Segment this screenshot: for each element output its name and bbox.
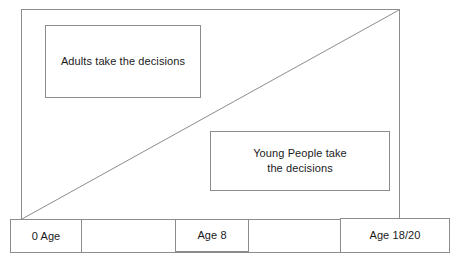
timeline-marker-middle-label: Age 8 xyxy=(175,219,249,252)
adults-region-label: Adults take the decisions xyxy=(45,25,201,98)
young-people-region-label: Young People take the decisions xyxy=(210,131,390,191)
diagram-canvas: Adults take the decisions Young People t… xyxy=(0,0,459,271)
timeline-marker-end-label: Age 18/20 xyxy=(340,218,450,253)
timeline-marker-start-label: 0 Age xyxy=(10,219,82,253)
